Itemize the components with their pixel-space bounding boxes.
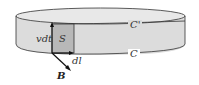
label-s: S: [59, 33, 66, 44]
cylinder-band-diagram: vdt S dl B C' C: [0, 0, 199, 85]
label-dl: dl: [72, 55, 82, 66]
label-b: B: [56, 70, 65, 81]
label-c-prime: C': [130, 19, 140, 30]
label-c: C: [130, 48, 138, 59]
label-vdt: vdt: [36, 33, 53, 44]
